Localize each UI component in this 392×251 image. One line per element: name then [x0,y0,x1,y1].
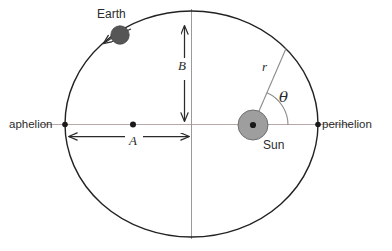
perihelion-marker-dot [315,122,321,128]
earth-body [111,26,129,44]
orbit-diagram: Earth Sun aphelion perihelion A B r θ [0,0,392,251]
sun-label: Sun [263,139,284,151]
perihelion-label: perihelion [322,119,372,131]
semi-major-axis-label: A [129,134,137,147]
earth-label: Earth [97,8,126,20]
aphelion-marker-dot [62,122,68,128]
theta-angle-label: θ [279,90,288,105]
sun-focus-dot [250,122,256,128]
radius-label: r [262,60,267,73]
ellipse-center-dot [130,122,136,128]
semi-minor-axis-label: B [178,59,186,72]
aphelion-label: aphelion [9,119,52,131]
